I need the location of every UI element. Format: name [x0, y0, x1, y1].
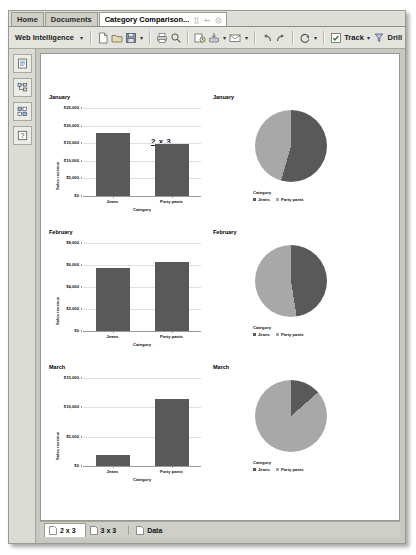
refresh-icon[interactable]: [299, 31, 311, 44]
toolbar-separator: [254, 31, 256, 44]
bar: [155, 399, 189, 466]
y-axis-tick: [81, 465, 82, 467]
chart-title: January: [213, 94, 234, 100]
minimize-icon[interactable]: [204, 17, 211, 24]
sidebar-item-navigation-map[interactable]: [13, 78, 32, 97]
save-dropdown-caret[interactable]: ▾: [139, 31, 145, 44]
x-axis-tick: [172, 196, 173, 198]
y-axis-tick: [81, 436, 82, 438]
track-dropdown-caret[interactable]: ▾: [366, 31, 372, 44]
report-tab-2x3[interactable]: 2 x 3: [44, 523, 86, 537]
pie-slice-group: [255, 380, 327, 452]
refresh-dropdown-caret[interactable]: ▾: [313, 31, 319, 44]
send-email-icon[interactable]: [229, 31, 241, 44]
sidebar-item-input-controls[interactable]: [13, 102, 32, 121]
sidebar-item-web-services[interactable]: ?: [13, 126, 32, 145]
main-toolbar: Web Intelligence ▾ ▾ ▾ ▾: [9, 27, 405, 49]
drill-icon[interactable]: [373, 31, 385, 44]
x-axis-tick: [172, 331, 173, 333]
drill-button-label[interactable]: Drill: [387, 33, 402, 42]
y-axis-tick-label: $10,000: [64, 404, 79, 409]
pin-icon[interactable]: [193, 17, 200, 24]
x-axis-tick: [113, 466, 114, 468]
x-axis-tick-label: Jeans: [83, 199, 143, 204]
y-axis-tick: [81, 286, 82, 288]
chart-title: March: [49, 364, 65, 370]
y-axis-tick-label: $0: [74, 193, 79, 198]
legend: JeansParty pants: [253, 197, 310, 202]
x-axis-line: [83, 466, 201, 467]
legend: JeansParty pants: [253, 467, 310, 472]
track-icon[interactable]: [330, 31, 342, 44]
legend-swatch: [253, 198, 256, 201]
legend: JeansParty pants: [253, 332, 310, 337]
bar: [96, 455, 130, 466]
x-axis-tick-label: Party pants: [142, 334, 202, 339]
document-tab-label: Category Comparison...: [105, 15, 190, 25]
bar-chart-january: January$0$5,000$10,000$15,000$20,000$25,…: [49, 94, 214, 219]
grid-line: [83, 243, 201, 244]
web-services-icon: ?: [17, 130, 28, 141]
pie-chart-february: FebruaryCategoryJeansParty pants: [213, 229, 393, 354]
y-axis-tick-label: $0: [74, 328, 79, 333]
tab-separator: [128, 526, 129, 535]
open-document-icon[interactable]: [111, 31, 123, 44]
sidebar-item-document-summary[interactable]: [13, 54, 32, 73]
legend-title: Category: [253, 325, 271, 330]
grid-line: [83, 108, 201, 109]
new-document-icon[interactable]: [97, 31, 109, 44]
toolbar-separator: [149, 31, 151, 44]
y-axis-tick-label: $15,000: [64, 375, 79, 380]
y-axis-tick: [81, 125, 82, 127]
report-tab-3x3[interactable]: 3 x 3: [86, 523, 126, 537]
y-axis-tick: [81, 308, 82, 310]
toolbar-separator: [292, 31, 294, 44]
toolbar-separator: [323, 31, 325, 44]
report-tab-data[interactable]: Data: [132, 523, 171, 537]
y-axis-tick-label: $6,000: [66, 262, 79, 267]
x-axis-line: [83, 331, 201, 332]
chart-title: March: [213, 364, 229, 370]
redo-icon[interactable]: [275, 31, 287, 44]
y-axis-tick-label: $25,000: [64, 105, 79, 110]
y-axis-tick: [81, 377, 82, 379]
report-tab-label: Data: [147, 527, 162, 534]
chart-title: January: [49, 94, 70, 100]
report-tab-bar: 2 x 3 3 x 3 Data: [40, 521, 400, 538]
legend-label: Party pants: [281, 467, 304, 472]
legend-swatch: [276, 198, 279, 201]
find-icon[interactable]: [170, 31, 182, 44]
legend-label: Jeans: [258, 467, 270, 472]
bar: [96, 268, 130, 331]
x-axis-tick-label: Jeans: [83, 334, 143, 339]
application-tab-strip: Home Documents Category Comparison...: [9, 11, 405, 27]
y-axis-tick: [81, 142, 82, 144]
pie-slice-group: [255, 110, 327, 182]
history-icon[interactable]: [194, 31, 206, 44]
report-tab-label: 3 x 3: [101, 527, 117, 534]
close-icon[interactable]: [215, 17, 222, 24]
tab-home[interactable]: Home: [11, 12, 44, 26]
track-button-label[interactable]: Track: [344, 33, 364, 42]
x-axis-title: Category: [83, 477, 201, 482]
web-intelligence-dropdown-caret[interactable]: ▾: [79, 31, 85, 44]
print-icon[interactable]: [156, 31, 168, 44]
tab-category-comparison[interactable]: Category Comparison...: [99, 12, 228, 26]
export-dropdown-caret[interactable]: ▾: [222, 31, 228, 44]
export-icon[interactable]: [208, 31, 220, 44]
y-axis-tick-label: $5,000: [66, 175, 79, 180]
y-axis-title: Sales revenue: [55, 432, 60, 460]
undo-icon[interactable]: [261, 31, 273, 44]
report-canvas-area: 2 x 3 January$0$5,000$10,000$15,000$20,0…: [36, 49, 405, 543]
save-icon[interactable]: [125, 31, 137, 44]
left-sidebar: ?: [9, 49, 36, 543]
y-axis-tick: [81, 195, 82, 197]
x-axis-tick: [172, 466, 173, 468]
y-axis-tick: [81, 406, 82, 408]
legend-label: Jeans: [258, 197, 270, 202]
page-icon: [136, 526, 144, 535]
web-intelligence-menu-label[interactable]: Web Intelligence: [12, 33, 77, 42]
send-dropdown-caret[interactable]: ▾: [243, 31, 249, 44]
y-axis-tick: [81, 242, 82, 244]
tab-documents[interactable]: Documents: [45, 12, 98, 26]
